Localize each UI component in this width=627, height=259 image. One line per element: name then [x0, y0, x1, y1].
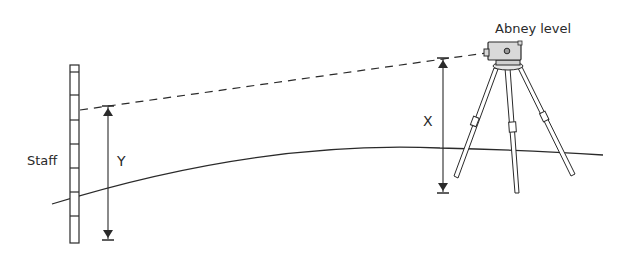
- sight-line: [80, 53, 486, 110]
- dimension-x: [437, 58, 449, 193]
- staff: [70, 65, 79, 243]
- abney-level-instrument: [484, 41, 522, 60]
- tripod: [454, 60, 575, 193]
- label-x: X: [423, 113, 433, 129]
- label-abney-level: Abney level: [495, 21, 571, 36]
- dimension-y: [102, 106, 114, 240]
- tripod-leg-right: [518, 67, 575, 176]
- abney-level-diagram: Abney level Staff Y X: [0, 0, 627, 259]
- label-staff: Staff: [27, 153, 58, 168]
- label-y: Y: [116, 153, 126, 169]
- lens-icon: [504, 48, 510, 54]
- ground-line: [52, 147, 603, 204]
